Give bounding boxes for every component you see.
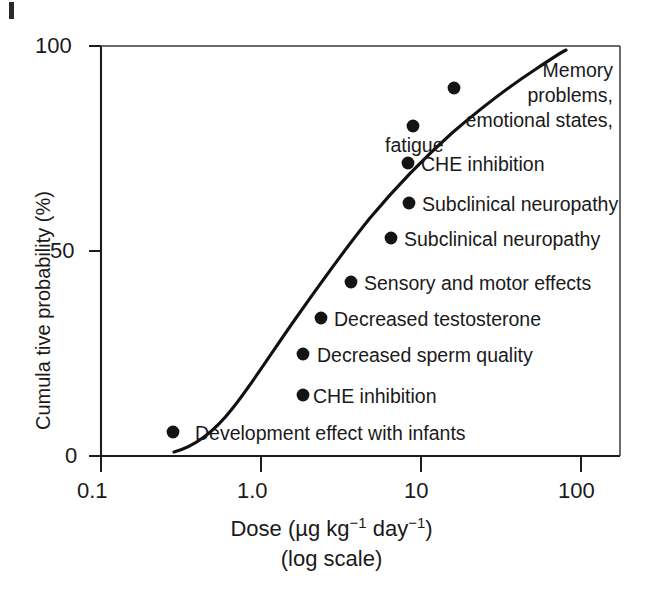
x-axis-title: Dose (µg kg−1 day−1) <box>0 516 663 542</box>
annotation-neuro-lower: Subclinical neuropathy <box>404 228 600 251</box>
annotation-testosterone: Decreased testosterone <box>334 308 541 331</box>
annotation-sensory: Sensory and motor effects <box>364 272 591 295</box>
annotation-neuro-upper: Subclinical neuropathy <box>422 193 618 216</box>
x-axis-title-pre: Dose (µg kg <box>230 516 349 541</box>
x-axis-title-post: ) <box>425 516 432 541</box>
annotation-sperm: Decreased sperm quality <box>317 344 533 367</box>
y-axis-title: Cumula tive probability (%) <box>32 191 56 430</box>
y-tick-label-100: 100 <box>35 33 72 59</box>
annotation-memory-line3: emotional states, <box>466 109 613 131</box>
x-tick-label-0p1: 0.1 <box>77 478 108 504</box>
x-axis-subtitle: (log scale) <box>0 546 663 572</box>
data-point-sperm <box>297 348 310 361</box>
annotation-memory-line1: Memory <box>543 59 613 81</box>
data-point-che-upper <box>402 157 415 170</box>
data-point-neuro-lower <box>385 232 398 245</box>
data-point-sensory <box>345 276 358 289</box>
figure-container: 100 50 0 0.1 1.0 10 100 Cumula tive prob… <box>0 0 663 593</box>
annotation-che-lower: CHE inhibition <box>313 385 437 408</box>
x-tick-label-10: 10 <box>404 478 428 504</box>
x-axis-title-sup-day: −1 <box>408 514 425 531</box>
annotation-memory-block: Memory problems, emotional states, fatig… <box>385 58 613 158</box>
data-point-che-lower <box>297 389 310 402</box>
x-axis-title-mid: day <box>367 516 409 541</box>
x-axis-title-sup-kg: −1 <box>350 514 367 531</box>
data-point-testosterone <box>315 312 328 325</box>
annotation-development: Development effect with infants <box>195 422 466 445</box>
x-tick-label-100: 100 <box>558 478 595 504</box>
data-point-neuro-upper <box>403 197 416 210</box>
annotation-memory-line2: problems, <box>527 84 613 106</box>
x-tick-label-1p0: 1.0 <box>237 478 268 504</box>
y-tick-label-0: 0 <box>65 443 77 469</box>
data-point-development <box>167 426 180 439</box>
annotation-che-upper: CHE inhibition <box>421 153 545 176</box>
